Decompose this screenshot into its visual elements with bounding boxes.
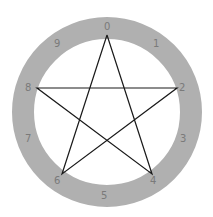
label-5: 5	[101, 190, 107, 201]
label-3: 3	[180, 133, 186, 144]
label-8: 8	[25, 82, 31, 93]
pentagram-diagram: 0 1 2 3 4 5 6 7 8 9	[0, 0, 213, 217]
label-9: 9	[54, 38, 60, 49]
outer-ring	[23, 28, 191, 196]
label-2: 2	[179, 82, 185, 93]
label-4: 4	[150, 175, 156, 186]
label-0: 0	[104, 21, 110, 32]
label-6: 6	[54, 175, 60, 186]
label-7: 7	[25, 133, 31, 144]
label-1: 1	[153, 38, 159, 49]
